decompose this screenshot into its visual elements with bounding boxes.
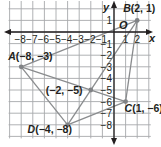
- x-axis-label: x: [148, 32, 156, 44]
- y-tick-label: −5: [101, 85, 113, 96]
- y-tick-label: −7: [101, 108, 113, 119]
- x-tick-label: −5: [49, 34, 61, 45]
- x-tick-label: −3: [72, 34, 84, 45]
- x-tick-label: 1: [123, 34, 129, 45]
- point-label-D: D(−4, −8): [28, 123, 72, 135]
- x-axis-left-arrow-icon: [4, 29, 11, 35]
- y-tick-label: −3: [101, 62, 113, 73]
- y-axis-top-arrow-icon: [111, 1, 117, 8]
- y-axis-label: y: [102, 1, 110, 13]
- y-tick-label: −1: [101, 39, 113, 50]
- y-axis-bottom-arrow-icon: [111, 138, 117, 145]
- origin-label: O: [119, 19, 128, 31]
- x-tick-label: −4: [61, 34, 73, 45]
- x-tick-label: −8: [14, 34, 26, 45]
- point-E: [88, 88, 93, 93]
- y-tick-label: −8: [101, 120, 113, 131]
- point-label-C: C(1, −6): [125, 102, 161, 114]
- point-A: [19, 64, 24, 69]
- point-label-B: B(2, 1): [123, 2, 155, 14]
- y-tick-label: −2: [101, 50, 113, 61]
- y-tick-label: −6: [101, 97, 113, 108]
- point-label-A: A(−8, −3): [7, 50, 52, 62]
- x-tick-label: 2: [134, 34, 140, 45]
- coordinate-plane: xyO−8−7−6−5−4−3−2−1121−1−2−3−4−5−6−7−8 A…: [0, 0, 161, 147]
- x-tick-label: −6: [38, 34, 50, 45]
- x-tick-label: −2: [84, 34, 96, 45]
- point-label-E: (−2, −5): [46, 84, 83, 96]
- y-tick-label: 1: [106, 15, 112, 26]
- x-tick-label: −7: [26, 34, 38, 45]
- point-B: [135, 18, 140, 23]
- y-tick-label: −4: [101, 73, 113, 84]
